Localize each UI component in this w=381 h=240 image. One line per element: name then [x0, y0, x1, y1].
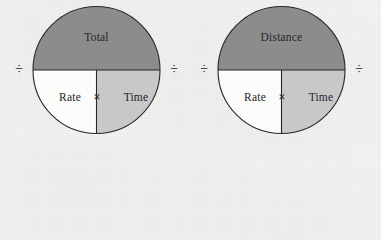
divide-icon-right: ÷	[352, 63, 366, 77]
wheel-diagram-figure: ÷ Total Rate × Time ÷ ÷	[0, 0, 381, 146]
wheel-distance: ÷ Distance Rate × Time ÷	[197, 0, 367, 146]
wheel-total-operator: ×	[88, 90, 106, 105]
wheel-distance-top-label: Distance	[218, 31, 345, 43]
wheel-distance-graphic	[197, 0, 367, 146]
wheel-distance-operator: ×	[273, 90, 291, 105]
wheel-distance-time-label: Time	[296, 91, 346, 103]
wheel-total-time-label: Time	[111, 91, 161, 103]
wheel-total-top-label: Total	[33, 31, 160, 43]
wheel-total-graphic	[12, 0, 182, 146]
divide-icon-right: ÷	[167, 63, 181, 77]
wheel-total: ÷ Total Rate × Time ÷	[12, 0, 182, 146]
